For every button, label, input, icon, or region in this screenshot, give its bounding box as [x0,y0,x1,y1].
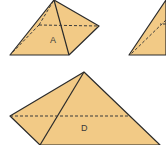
pyramids-figure: A D [0,0,166,145]
pyramid-b-silhouette [129,0,166,55]
pyramid-b-partial [129,0,166,55]
pyramid-a-label: A [50,35,56,45]
pyramid-d: D [10,72,160,145]
pyramid-a: A [10,0,99,55]
pyramid-a-silhouette [10,0,99,55]
pyramid-d-label: D [81,123,88,133]
pyramid-d-silhouette [10,72,160,145]
